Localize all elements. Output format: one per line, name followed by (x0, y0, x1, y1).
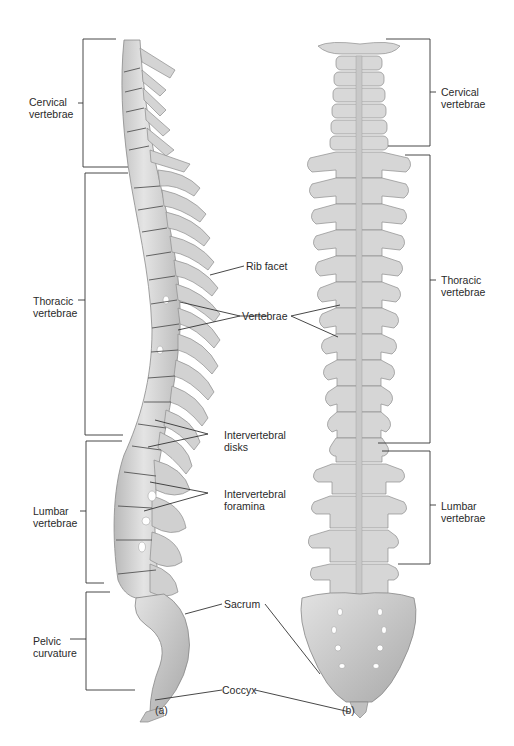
label-sacrum: Sacrum (224, 598, 260, 610)
label-lumbar-left: Lumbar vertebrae (33, 505, 77, 529)
posterior-spine (301, 42, 416, 718)
label-intervertebral-foramina: Intervertebral foramina (224, 488, 286, 512)
caption-b: (b) (342, 704, 355, 716)
label-pelvic-curvature: Pelvic curvature (33, 635, 77, 659)
label-cervical-right: Cervical vertebrae (441, 86, 485, 110)
label-vertebrae: Vertebrae (242, 310, 288, 322)
label-rib-facet: Rib facet (246, 260, 287, 272)
label-coccyx: Coccyx (222, 684, 256, 696)
label-cervical-left: Cervical vertebrae (29, 96, 73, 120)
label-thoracic-right: Thoracic vertebrae (441, 274, 485, 298)
caption-a: (a) (155, 704, 168, 716)
spine-illustration (0, 0, 514, 746)
label-thoracic-left: Thoracic vertebrae (33, 295, 77, 319)
label-lumbar-right: Lumbar vertebrae (441, 500, 485, 524)
label-intervertebral-disks: Intervertebral disks (224, 429, 286, 453)
lateral-spine (114, 40, 220, 722)
